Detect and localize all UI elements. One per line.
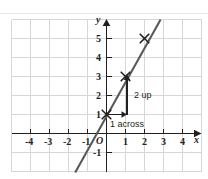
y-tick-label-1: 1 bbox=[96, 110, 101, 120]
y-tick-label-3: 3 bbox=[96, 72, 101, 82]
x-tick-label-3: 3 bbox=[161, 137, 166, 147]
annotation-2-up: 2 up bbox=[134, 91, 152, 100]
x-tick-label-minus-2: -2 bbox=[63, 137, 71, 147]
x-tick-label-minus-1: -1 bbox=[82, 137, 90, 147]
x-tick-label-2: 2 bbox=[142, 137, 147, 147]
graph-canvas bbox=[0, 0, 208, 179]
origin-label: O bbox=[96, 136, 103, 146]
x-tick-label-4: 4 bbox=[180, 137, 185, 147]
y-tick-label-minus-1: -1 bbox=[93, 148, 101, 158]
annotation-1-across: 1 across bbox=[110, 120, 144, 129]
coordinate-graph-figure: y x O 5 4 3 2 1 -1 -4 -3 -2 -1 1 2 3 4 1… bbox=[0, 0, 208, 179]
y-tick-label-4: 4 bbox=[96, 53, 101, 63]
y-tick-label-2: 2 bbox=[96, 91, 101, 101]
x-axis-label: x bbox=[194, 135, 199, 145]
x-tick-label-minus-4: -4 bbox=[25, 137, 33, 147]
y-tick-label-5: 5 bbox=[96, 34, 101, 44]
x-tick-label-1: 1 bbox=[123, 137, 128, 147]
x-tick-label-minus-3: -3 bbox=[44, 137, 52, 147]
y-axis-label: y bbox=[96, 15, 100, 25]
